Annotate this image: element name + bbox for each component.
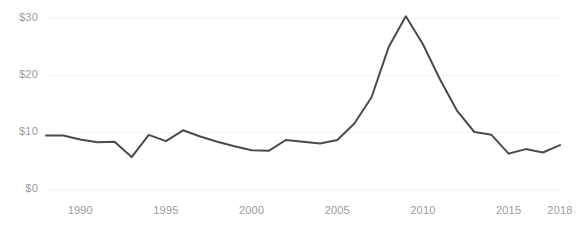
x-axis-tick-label: 2015 xyxy=(489,204,529,216)
y-axis-tick-label: $20 xyxy=(4,68,38,80)
x-axis-tick-label: 2005 xyxy=(317,204,357,216)
x-axis-tick-label: 2000 xyxy=(232,204,272,216)
data-series xyxy=(46,16,560,157)
x-axis-tick-label: 2018 xyxy=(540,204,577,216)
gridlines xyxy=(46,18,560,189)
x-axis-tick-label: 2010 xyxy=(403,204,443,216)
y-axis-tick-label: $10 xyxy=(4,125,38,137)
y-axis-tick-label: $30 xyxy=(4,11,38,23)
series-line xyxy=(46,16,560,157)
x-axis-tick-label: 1990 xyxy=(60,204,100,216)
y-axis-tick-label: $0 xyxy=(4,182,38,194)
x-axis-tick-label: 1995 xyxy=(146,204,186,216)
